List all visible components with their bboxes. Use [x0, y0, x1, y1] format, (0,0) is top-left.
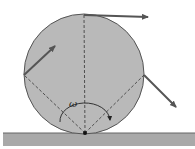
- diagram-canvas: ω: [0, 0, 195, 149]
- rolling-disk-diagram: ω: [0, 0, 195, 149]
- contact-point: [83, 131, 87, 135]
- omega-label: ω: [69, 98, 77, 109]
- ground: [3, 133, 195, 146]
- right-velocity-arrow: [144, 75, 176, 107]
